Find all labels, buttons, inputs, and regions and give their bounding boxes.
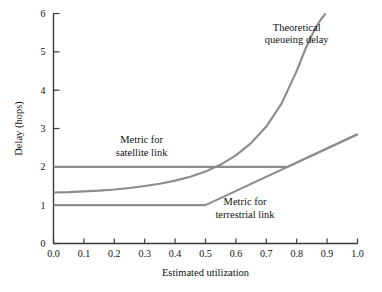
metric-terrestrial-link-label-line-0: Metric for — [224, 196, 267, 207]
y-axis-ticks: 0123456 — [41, 8, 60, 249]
chart-annotations: Theoreticalqueueing delayMetric forsatel… — [116, 22, 330, 220]
y-axis-tick-label: 1 — [41, 200, 46, 211]
x-axis-tick-label: 0.8 — [290, 248, 303, 259]
y-axis-tick-label: 0 — [41, 238, 46, 249]
x-axis-tick-label: 0.6 — [230, 248, 243, 259]
metric-terrestrial-link-label: Metric forterrestrial link — [215, 196, 275, 220]
x-axis-tick-label: 0.2 — [108, 248, 121, 259]
metric-satellite-link-label-line-1: satellite link — [116, 147, 168, 158]
x-axis-ticks: 0.00.10.20.30.40.50.60.70.80.91.0 — [47, 239, 364, 259]
metric-satellite-link-label: Metric forsatellite link — [116, 134, 168, 158]
series-line-1 — [54, 134, 358, 167]
metric-satellite-link-label-line-0: Metric for — [120, 134, 163, 145]
x-axis-tick-label: 1.0 — [351, 248, 364, 259]
series-line-2 — [54, 134, 358, 205]
y-axis-tick-label: 4 — [41, 85, 46, 96]
x-axis-title: Estimated utilization — [162, 267, 250, 278]
theoretical-queueing-delay-label: Theoreticalqueueing delay — [265, 22, 330, 46]
x-axis-tick-label: 0.5 — [199, 248, 212, 259]
y-axis-tick-label: 5 — [41, 46, 46, 57]
x-axis-tick-label: 0.4 — [169, 248, 182, 259]
theoretical-queueing-delay-label-line-1: queueing delay — [265, 34, 330, 45]
y-axis-title: Delay (hops) — [13, 101, 25, 156]
chart-container: 0.00.10.20.30.40.50.60.70.80.91.0 012345… — [0, 0, 382, 292]
y-axis-tick-label: 2 — [41, 161, 46, 172]
x-axis-tick-label: 0.3 — [138, 248, 151, 259]
delay-vs-utilization-chart: 0.00.10.20.30.40.50.60.70.80.91.0 012345… — [0, 0, 382, 292]
metric-terrestrial-link-label-line-1: terrestrial link — [215, 209, 275, 220]
x-axis-tick-label: 0.7 — [260, 248, 273, 259]
theoretical-queueing-delay-label-line-0: Theoretical — [273, 22, 321, 33]
x-axis-tick-label: 0.1 — [78, 248, 91, 259]
y-axis-tick-label: 6 — [41, 8, 46, 19]
x-axis-tick-label: 0.9 — [321, 248, 334, 259]
axes — [54, 14, 358, 244]
x-axis-tick-label: 0.0 — [47, 248, 60, 259]
y-axis-tick-label: 3 — [41, 123, 46, 134]
